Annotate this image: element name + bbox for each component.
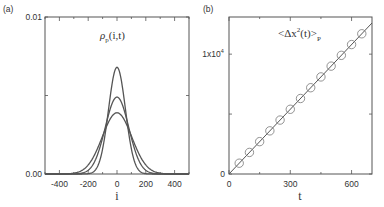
panel-b-xlabel: t — [298, 189, 302, 203]
y-tick-label: 0.00 — [25, 169, 42, 179]
panel-a-title: ρp(i,t) — [99, 29, 125, 44]
y-tick-label: 1x104 — [202, 48, 224, 59]
x-tick-label: -400 — [51, 179, 68, 189]
panel-b-title: <Δx2(t)>P — [278, 26, 321, 43]
panel-b-mean-square-displacement: (b) 01x104 0300600 <Δx2(t)>P t — [202, 4, 372, 203]
panel-a-density-profile: (a) 0.000.01 -400-2000200400 ρp(i,t) i — [3, 4, 189, 203]
x-tick-label: -200 — [80, 179, 97, 189]
x-tick-label: 300 — [283, 179, 297, 189]
msd-series — [229, 23, 372, 174]
panel-a-xlabel: i — [115, 189, 119, 203]
x-tick-label: 600 — [344, 179, 358, 189]
x-tick-label: 400 — [168, 179, 182, 189]
x-tick-label: 0 — [227, 179, 232, 189]
figure: (a) 0.000.01 -400-2000200400 ρp(i,t) i (… — [0, 0, 384, 207]
density-curve-1 — [45, 67, 189, 174]
y-tick-label: 0.01 — [25, 12, 42, 22]
x-tick-label: 200 — [139, 179, 153, 189]
density-curve-3 — [45, 113, 189, 174]
y-tick-label: 0 — [220, 169, 225, 179]
x-tick-label: 0 — [115, 179, 120, 189]
density-curves — [45, 67, 189, 174]
panel-a-label: (a) — [3, 4, 14, 14]
linear-fit-line — [229, 23, 372, 174]
panel-b-label: (b) — [203, 4, 214, 14]
density-curve-2 — [45, 97, 189, 174]
